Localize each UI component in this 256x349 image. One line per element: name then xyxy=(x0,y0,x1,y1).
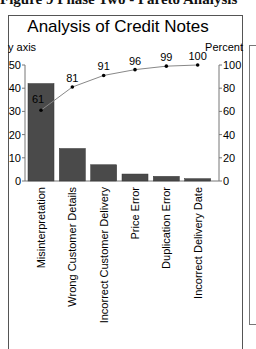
bar xyxy=(122,174,148,181)
y-tick-label: 40 xyxy=(9,82,21,94)
data-label: 100 xyxy=(188,50,206,62)
line-point xyxy=(71,85,75,89)
line-point xyxy=(196,63,200,67)
y-tick-label: 0 xyxy=(15,175,21,187)
bar xyxy=(91,165,117,181)
pareto-chart: Analysis of Credit Notes y axis Percent … xyxy=(0,0,256,349)
data-label: 61 xyxy=(32,93,44,105)
cumulative-line: 6181919699100 xyxy=(32,50,207,112)
line-point xyxy=(39,108,43,112)
line-point xyxy=(165,64,169,68)
data-label: 81 xyxy=(66,72,78,84)
y2-axis-label: Percent xyxy=(205,41,243,53)
y2-tick-label: 0 xyxy=(223,175,229,187)
chart-title: Analysis of Credit Notes xyxy=(27,17,208,36)
data-label: 91 xyxy=(98,60,110,72)
y-tick-label: 30 xyxy=(9,105,21,117)
x-tick-label: Misinterpretation xyxy=(35,187,47,268)
y-tick-label: 50 xyxy=(9,59,21,71)
x-tick-label: Duplication Error xyxy=(160,187,172,269)
x-tick-label: Wrong Customer Details xyxy=(66,187,78,307)
line-point xyxy=(102,74,106,78)
x-tick-labels: MisinterpretationWrong Customer DetailsI… xyxy=(35,187,204,324)
y2-tick-label: 20 xyxy=(223,152,235,164)
bars xyxy=(28,84,211,181)
data-label: 96 xyxy=(129,55,141,67)
y2-tick-label: 100 xyxy=(223,59,241,71)
bar xyxy=(185,179,211,181)
y2-tick-label: 80 xyxy=(223,82,235,94)
y-axis-label: y axis xyxy=(8,41,37,53)
line-point xyxy=(133,68,137,72)
bar xyxy=(59,149,85,181)
x-tick-label: Incorrect Customer Delivery xyxy=(98,187,110,324)
x-tick-label: Incorrect Delivery Date xyxy=(192,187,204,299)
y2-tick-label: 60 xyxy=(223,105,235,117)
data-label: 99 xyxy=(160,51,172,63)
y2-tick-label: 40 xyxy=(223,129,235,141)
x-tick-label: Price Error xyxy=(129,187,141,240)
bar xyxy=(153,176,179,181)
y-tick-label: 10 xyxy=(9,152,21,164)
y-tick-label: 20 xyxy=(9,129,21,141)
